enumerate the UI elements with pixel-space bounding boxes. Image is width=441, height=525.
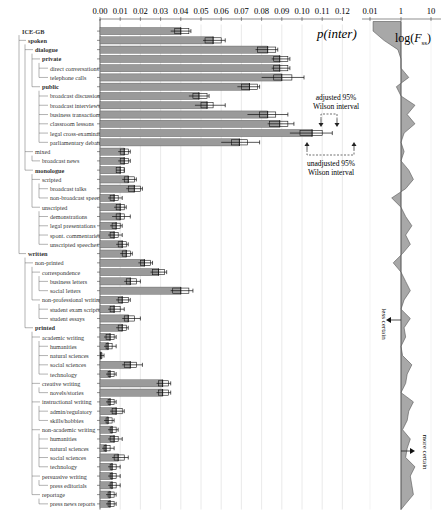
category-label: public	[42, 83, 59, 90]
category-label: student essays	[50, 316, 85, 322]
category-label: admin/regulatory	[50, 409, 93, 415]
category-label: private	[42, 55, 61, 62]
category-label: broadcast news	[42, 158, 80, 164]
category-label: spont. commentaries	[50, 233, 101, 239]
bar	[100, 157, 130, 164]
bar	[100, 352, 104, 359]
bar	[100, 491, 116, 498]
category-label: academic writing	[42, 335, 84, 341]
category-label: telephone calls	[50, 75, 87, 81]
side-panel-title: log(Fss)	[395, 31, 431, 47]
category-label: business letters	[50, 279, 88, 285]
category-label: press news reports	[50, 501, 96, 507]
x-tick-label: 0.08	[254, 6, 269, 16]
category-label: correspondence	[42, 270, 81, 276]
category-label: broadcast discussions	[50, 93, 103, 99]
category-label: non-professional writing	[42, 297, 102, 303]
x-tick-label: 0.10	[294, 6, 309, 16]
category-label: natural sciences	[50, 446, 89, 452]
bar	[100, 445, 114, 452]
bar	[100, 333, 116, 340]
bar	[100, 241, 128, 248]
bar	[100, 389, 171, 396]
category-label: dialogue	[35, 46, 58, 53]
category-label: written	[28, 250, 48, 257]
bar	[100, 231, 122, 238]
bar	[100, 426, 118, 433]
bar	[100, 417, 114, 424]
bar	[100, 129, 332, 136]
category-label: business transactions	[50, 112, 102, 118]
bar	[100, 148, 130, 155]
x-tick-label: 0.09	[274, 6, 289, 16]
x-tick-label: 0.00	[92, 6, 107, 16]
side-tick-label: 10	[427, 6, 436, 16]
category-label: printed	[35, 324, 55, 331]
x-tick-label: 0.05	[193, 6, 208, 16]
x-tick-label: 0.03	[153, 6, 168, 16]
category-label: demonstrations	[50, 214, 88, 220]
legend-adjusted-line1: adjusted 95%	[316, 93, 357, 102]
bar	[100, 213, 130, 220]
x-tick-label: 0.07	[234, 6, 250, 16]
bar	[100, 259, 153, 266]
category-label: direct conversations	[50, 66, 100, 72]
bar	[100, 380, 171, 387]
bar	[100, 269, 167, 276]
category-label: non-printed	[35, 260, 63, 266]
bar	[100, 370, 116, 377]
bar	[100, 204, 126, 211]
category-label: technology	[50, 464, 78, 470]
category-label: social sciences	[50, 362, 87, 368]
legend-adjusted: adjusted 95% Wilson interval	[313, 93, 359, 127]
bar	[100, 361, 142, 368]
bar	[100, 324, 128, 331]
chart-root: 0.000.010.020.030.040.050.060.070.080.09…	[0, 0, 441, 525]
category-label: humanities	[50, 344, 77, 350]
bar	[100, 37, 225, 44]
category-label: scripted	[42, 177, 61, 183]
x-tick-label: 0.02	[133, 6, 148, 16]
bar	[100, 111, 288, 118]
category-label: spoken	[28, 37, 47, 44]
category-label: skills/hobbies	[50, 418, 84, 424]
bar	[100, 194, 122, 201]
less-certain-annotation: less certain	[380, 308, 401, 340]
category-label: non-broadcast speeches	[50, 195, 108, 201]
category-label: instructional writing	[42, 399, 92, 405]
bar	[100, 92, 209, 99]
category-label: novels/stories	[50, 390, 84, 396]
bar	[100, 472, 120, 479]
category-label: ICE-GB	[22, 28, 45, 35]
side-tick-label: 0.01	[362, 6, 377, 16]
bar	[100, 500, 116, 507]
bar	[100, 120, 294, 127]
fss-area	[373, 22, 415, 510]
bar	[100, 46, 278, 53]
category-label: natural sciences	[50, 353, 89, 359]
category-label: social letters	[50, 288, 81, 294]
bar	[100, 315, 140, 322]
category-label: reportage	[42, 492, 65, 498]
category-label: parliamentary debates	[50, 140, 104, 146]
legend-adjusted-line2: Wilson interval	[313, 102, 359, 111]
bar	[100, 398, 116, 405]
legend-unadjusted-line1: unadjusted 95%	[307, 159, 355, 168]
bar	[100, 408, 124, 415]
bar	[100, 139, 260, 146]
bar	[100, 176, 136, 183]
less-certain-label: less certain	[380, 308, 388, 340]
x-tick-label: 0.06	[214, 6, 230, 16]
category-label: non-academic writing	[42, 427, 95, 433]
bar	[100, 454, 128, 461]
bar	[100, 306, 124, 313]
bar	[100, 296, 130, 303]
category-label: broadcast interviews	[50, 103, 101, 109]
category-label: classroom lessons	[50, 121, 94, 127]
category-label: mixed	[35, 149, 50, 155]
category-label: monologue	[35, 167, 65, 174]
legend-unadjusted: unadjusted 95% Wilson interval	[305, 142, 357, 177]
side-tick-label: 1	[399, 6, 403, 16]
bar	[100, 435, 122, 442]
arrow-right-icon	[410, 448, 415, 454]
